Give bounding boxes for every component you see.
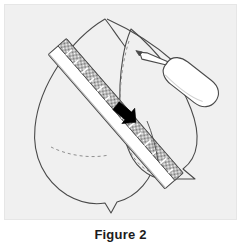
figure-container: Figure 2 xyxy=(0,0,241,248)
leaf-measurement-illustration xyxy=(5,5,236,219)
illustration-panel xyxy=(4,4,237,220)
figure-caption: Figure 2 xyxy=(0,227,241,242)
